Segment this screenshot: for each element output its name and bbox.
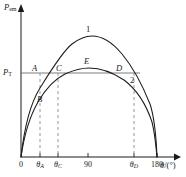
x-tick-label-180: 180 xyxy=(148,161,166,169)
curve-2-path xyxy=(21,68,157,157)
point-label-b: B xyxy=(37,95,42,104)
y-axis-label: Pem xyxy=(4,3,17,12)
dropline-group xyxy=(40,73,134,156)
y-axis-label-sub: em xyxy=(9,6,16,12)
x-tick-label-theta-a: θA xyxy=(33,161,47,169)
point-label-e: E xyxy=(84,57,89,66)
threshold-label-pt: PT xyxy=(3,68,12,77)
point-label-d: D xyxy=(116,64,122,73)
threshold-label-sub: T xyxy=(8,71,12,77)
x-tick-label-theta-c: θC xyxy=(51,161,65,169)
plot-canvas xyxy=(0,0,186,177)
point-label-a: A xyxy=(32,64,37,73)
x-tick-label-0: 0 xyxy=(16,161,26,169)
x-tick-label-theta-d: θD xyxy=(127,161,141,169)
curve-label-2: 2 xyxy=(130,76,134,85)
y-axis-arrow xyxy=(18,4,24,12)
curve-label-1: 1 xyxy=(86,25,90,34)
x-tick-label-90: 90 xyxy=(81,161,95,169)
power-angle-characteristic-figure: Pem PT θ/(°) 0 θA θC 90 θD 180 A B C E D… xyxy=(0,0,186,177)
point-label-c: C xyxy=(56,64,62,73)
